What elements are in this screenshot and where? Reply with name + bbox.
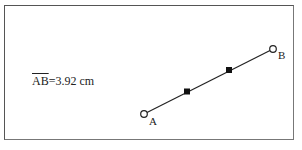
- trisection-point-2[interactable]: [226, 67, 232, 73]
- point-b-label: B: [278, 49, 285, 61]
- point-b[interactable]: [270, 46, 277, 53]
- geometry-canvas: A B: [0, 0, 302, 150]
- trisection-point-1[interactable]: [184, 89, 190, 95]
- point-a[interactable]: [141, 111, 148, 118]
- point-a-label: A: [149, 115, 157, 127]
- segment-ab[interactable]: [144, 49, 273, 114]
